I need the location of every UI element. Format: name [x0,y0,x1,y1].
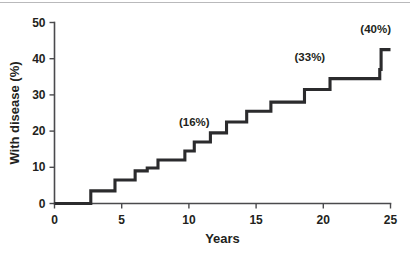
annotation-percentage-label: (16%) [179,116,210,128]
x-tick-label: 5 [118,213,125,227]
x-tick-label: 15 [249,213,263,227]
percentage-annotations: (16%)(33%)(40%) [179,23,391,127]
y-tick-label: 0 [39,197,46,211]
y-tick-label: 50 [32,16,46,30]
annotation-percentage-label: (33%) [295,51,326,63]
y-tick-label: 10 [32,160,46,174]
y-axis-tick-labels: 01020304050 [32,16,46,211]
annotation-percentage-label: (40%) [360,23,391,35]
step-chart-plot: 01020304050 0510152025 (16%)(33%)(40%) Y… [0,0,410,256]
x-tick-label: 25 [384,213,398,227]
x-axis-title: Years [205,231,240,246]
y-tick-label: 40 [32,52,46,66]
y-tick-label: 30 [32,88,46,102]
x-tick-label: 0 [51,213,58,227]
x-tick-label: 20 [317,213,331,227]
y-tick-label: 20 [32,124,46,138]
cumulative-incidence-step-line [55,50,391,204]
x-axis-tick-labels: 0510152025 [51,213,397,227]
y-axis-title: With disease (%) [7,61,22,164]
x-tick-label: 10 [182,213,196,227]
chart-figure: 01020304050 0510152025 (16%)(33%)(40%) Y… [0,0,410,256]
